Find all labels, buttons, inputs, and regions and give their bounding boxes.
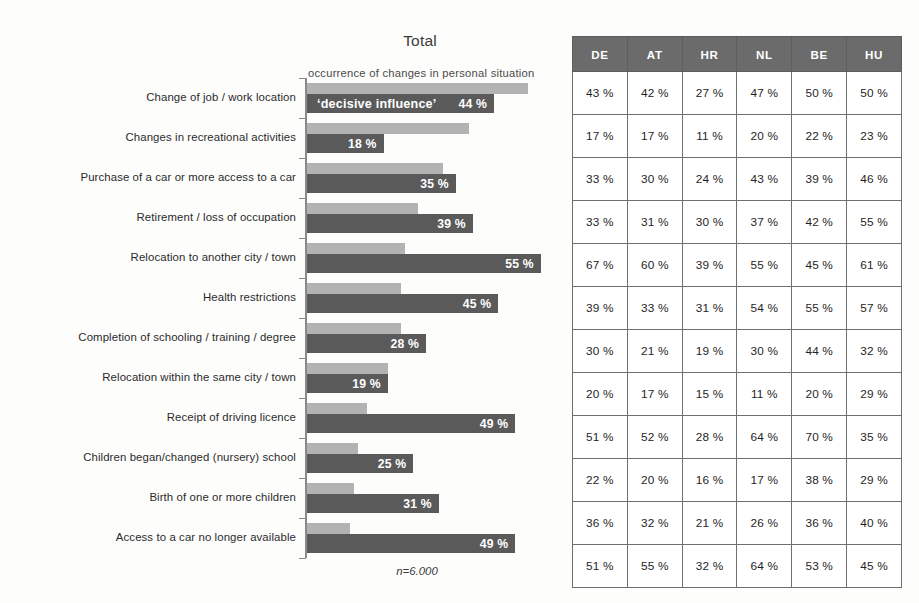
chart-row-label: Purchase of a car or more access to a ca…	[26, 171, 296, 184]
table-cell: 57 %	[847, 287, 902, 330]
table-row: 51 %52 %28 %64 %70 %35 %	[573, 416, 902, 459]
chart-title: Total	[330, 32, 510, 50]
bar-decisive-influence: 45 %	[307, 294, 498, 313]
table-cell: 50 %	[792, 72, 847, 115]
table-cell: 17 %	[737, 459, 792, 502]
bar-occurrence	[307, 363, 388, 374]
table-cell: 55 %	[847, 201, 902, 244]
table-column-header: NL	[737, 37, 792, 72]
table-cell: 19 %	[682, 330, 737, 373]
chart-row-bars: 55 %	[307, 238, 557, 278]
table-column-header: DE	[573, 37, 628, 72]
table-row: 36 %32 %21 %26 %36 %40 %	[573, 502, 902, 545]
chart-row: Changes in recreational activities18 %	[0, 118, 560, 158]
table-cell: 30 %	[573, 330, 628, 373]
chart-row: Relocation within the same city / town19…	[0, 358, 560, 398]
bar-occurrence	[307, 163, 443, 174]
country-percentage-table: DEATHRNLBEHU 43 %42 %27 %47 %50 %50 %17 …	[572, 36, 902, 588]
chart-row-bars: 19 %	[307, 358, 557, 398]
chart-row-group: Change of job / work location‘decisive i…	[0, 78, 560, 558]
bar-occurrence	[307, 483, 354, 494]
table-cell: 30 %	[682, 201, 737, 244]
table-cell: 55 %	[627, 545, 682, 588]
table-cell: 31 %	[682, 287, 737, 330]
table-column-header: HR	[682, 37, 737, 72]
table-cell: 15 %	[682, 373, 737, 416]
chart-row-label: Birth of one or more children	[26, 491, 296, 504]
bar-occurrence	[307, 403, 367, 414]
bar-decisive-influence: ‘decisive influence’44 %	[307, 94, 494, 113]
bar-occurrence	[307, 523, 350, 534]
chart-row: Purchase of a car or more access to a ca…	[0, 158, 560, 198]
table-cell: 33 %	[573, 158, 628, 201]
table-row: 67 %60 %39 %55 %45 %61 %	[573, 244, 902, 287]
table-cell: 61 %	[847, 244, 902, 287]
bar-decisive-influence: 49 %	[307, 534, 515, 553]
chart-row: Change of job / work location‘decisive i…	[0, 78, 560, 118]
country-table-panel: DEATHRNLBEHU 43 %42 %27 %47 %50 %50 %17 …	[572, 36, 902, 588]
chart-row-label: Health restrictions	[26, 291, 296, 304]
bar-decisive-influence: 55 %	[307, 254, 541, 273]
chart-row-label: Receipt of driving licence	[26, 411, 296, 424]
table-cell: 17 %	[627, 115, 682, 158]
bar-value-label: 49 %	[480, 417, 516, 431]
table-column-header: HU	[847, 37, 902, 72]
chart-row-label: Relocation to another city / town	[26, 251, 296, 264]
chart-row-bars: 35 %	[307, 158, 557, 198]
table-cell: 55 %	[792, 287, 847, 330]
bar-value-label: 39 %	[437, 217, 473, 231]
table-cell: 64 %	[737, 545, 792, 588]
chart-row: Receipt of driving licence49 %	[0, 398, 560, 438]
table-cell: 29 %	[847, 459, 902, 502]
table-cell: 20 %	[737, 115, 792, 158]
table-cell: 52 %	[627, 416, 682, 459]
table-cell: 36 %	[573, 502, 628, 545]
table-cell: 46 %	[847, 158, 902, 201]
chart-row: Relocation to another city / town55 %	[0, 238, 560, 278]
table-cell: 23 %	[847, 115, 902, 158]
chart-row: Health restrictions45 %	[0, 278, 560, 318]
bar-decisive-influence: 35 %	[307, 174, 456, 193]
table-cell: 11 %	[682, 115, 737, 158]
chart-row-bars: 45 %	[307, 278, 557, 318]
chart-row: Birth of one or more children31 %	[0, 478, 560, 518]
chart-row-bars: 18 %	[307, 118, 557, 158]
bar-occurrence	[307, 123, 469, 134]
table-cell: 42 %	[792, 201, 847, 244]
table-cell: 27 %	[682, 72, 737, 115]
table-cell: 39 %	[792, 158, 847, 201]
table-column-header: BE	[792, 37, 847, 72]
bar-occurrence	[307, 203, 418, 214]
chart-row-label: Changes in recreational activities	[26, 131, 296, 144]
table-cell: 55 %	[737, 244, 792, 287]
bar-value-label: 31 %	[403, 497, 439, 511]
table-cell: 47 %	[737, 72, 792, 115]
chart-page: Total occurrence of changes in personal …	[0, 0, 919, 603]
bar-value-label: 18 %	[348, 137, 384, 151]
table-row: 51 %55 %32 %64 %53 %45 %	[573, 545, 902, 588]
bar-decisive-influence: 25 %	[307, 454, 413, 473]
table-cell: 39 %	[573, 287, 628, 330]
chart-row-bars: 49 %	[307, 518, 557, 558]
table-cell: 30 %	[627, 158, 682, 201]
table-cell: 32 %	[682, 545, 737, 588]
bar-value-label: 25 %	[378, 457, 414, 471]
bar-chart-panel: Total occurrence of changes in personal …	[0, 0, 560, 603]
table-cell: 11 %	[737, 373, 792, 416]
chart-row-label: Children began/changed (nursery) school	[26, 451, 296, 464]
table-cell: 20 %	[627, 459, 682, 502]
chart-row-label: Relocation within the same city / town	[26, 371, 296, 384]
chart-row: Children began/changed (nursery) school2…	[0, 438, 560, 478]
bar-value-label: 19 %	[352, 377, 388, 391]
chart-footnote: n=6.000	[307, 565, 527, 577]
table-cell: 20 %	[792, 373, 847, 416]
table-column-header: AT	[627, 37, 682, 72]
table-cell: 21 %	[627, 330, 682, 373]
table-row: 22 %20 %16 %17 %38 %29 %	[573, 459, 902, 502]
chart-row-bars: 28 %	[307, 318, 557, 358]
table-row: 33 %31 %30 %37 %42 %55 %	[573, 201, 902, 244]
bar-value-label: 45 %	[463, 297, 499, 311]
bar-decisive-influence: 18 %	[307, 134, 384, 153]
table-cell: 16 %	[682, 459, 737, 502]
table-cell: 43 %	[737, 158, 792, 201]
